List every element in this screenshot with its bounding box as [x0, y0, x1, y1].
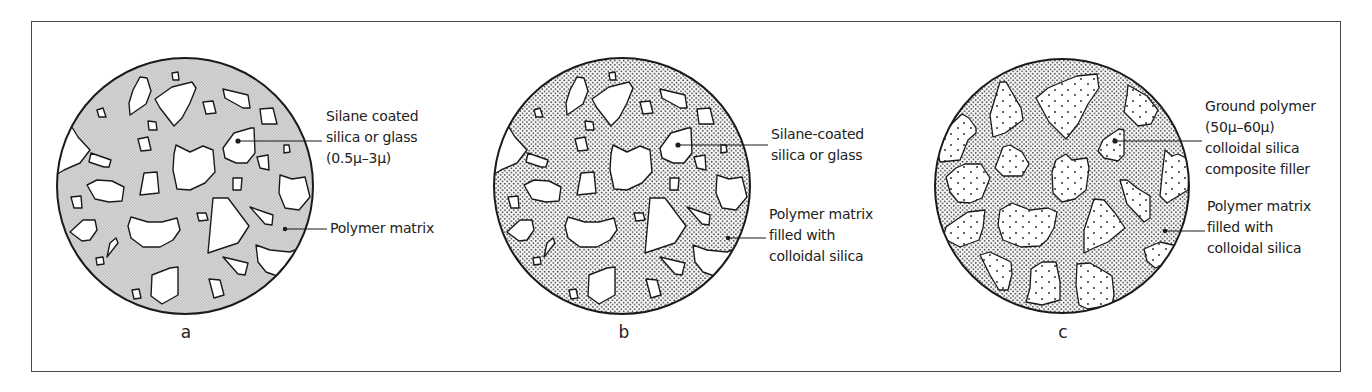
callout-line: Polymer matrix: [330, 218, 434, 239]
callout-line: composite filler: [1205, 159, 1316, 180]
panel-label-c: c: [1053, 322, 1073, 342]
callout-polymer-matrix-b: Polymer matrix filled with colloidal sil…: [769, 204, 873, 267]
callout-polymer-matrix-c: Polymer matrix filled with colloidal sil…: [1207, 196, 1311, 259]
panel-a-circle: [50, 58, 322, 314]
panel-label-b: b: [614, 322, 634, 342]
callout-line: silica or glass: [771, 145, 864, 166]
panel-c-circle: [935, 59, 1190, 313]
callout-line: Silane-coated: [771, 124, 864, 145]
callout-silane-coated-a: Silane coated silica or glass (0.5μ–3μ): [326, 106, 418, 169]
callout-line: colloidal silica: [1207, 238, 1311, 259]
panel-label-a: a: [176, 322, 196, 342]
callout-line: Polymer matrix: [769, 204, 873, 225]
callout-line: colloidal silica: [1205, 138, 1316, 159]
callout-line: filled with: [769, 225, 873, 246]
callout-silane-coated-b: Silane-coated silica or glass: [771, 124, 864, 166]
panel-b-circle: [487, 58, 759, 314]
callout-line: colloidal silica: [769, 246, 873, 267]
callout-line: (50μ–60μ): [1205, 117, 1316, 138]
callout-line: Ground polymer: [1205, 96, 1316, 117]
callout-ground-polymer-c: Ground polymer (50μ–60μ) colloidal silic…: [1205, 96, 1316, 180]
figure-stage: Silane coated silica or glass (0.5μ–3μ) …: [0, 0, 1372, 392]
callout-line: silica or glass: [326, 127, 418, 148]
callout-line: filled with: [1207, 217, 1311, 238]
callout-line: Silane coated: [326, 106, 418, 127]
callout-line: (0.5μ–3μ): [326, 148, 418, 169]
callout-line: Polymer matrix: [1207, 196, 1311, 217]
callout-polymer-matrix-a: Polymer matrix: [330, 218, 434, 239]
diagram-svg: [0, 0, 1372, 392]
